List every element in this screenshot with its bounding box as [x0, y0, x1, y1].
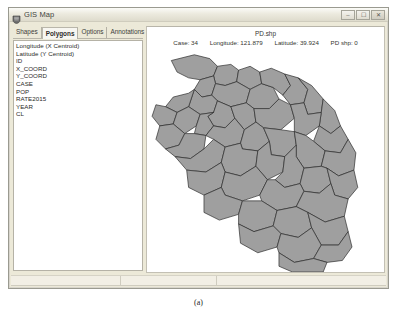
list-item[interactable]: Longitude (X Centroid) [16, 42, 140, 50]
list-item[interactable]: Y_COORD [16, 72, 140, 80]
map-view-panel[interactable]: PD.shp Case: 34 Longitude: 121.879 Latit… [146, 26, 385, 273]
figure-panel: GIS Map – ☐ ✕ Shapes Polygons O [0, 0, 397, 312]
window-controls: – ☐ ✕ [341, 10, 385, 20]
gis-app-icon [12, 10, 21, 19]
list-item[interactable]: RATE2015 [16, 95, 140, 103]
map-longitude-readout: Longitude: 121.879 [210, 39, 263, 46]
window-title: GIS Map [24, 10, 341, 19]
list-item[interactable]: YEAR [16, 103, 140, 111]
polygon-layer [152, 55, 358, 272]
map-case-readout: Case: 34 [173, 39, 198, 46]
tab-options[interactable]: Options [78, 27, 107, 38]
figure-caption: (a) [0, 298, 397, 308]
list-item[interactable]: ID [16, 57, 140, 65]
map-layer-title: PD.shp [147, 29, 384, 38]
status-bar [11, 275, 386, 286]
close-icon: ✕ [376, 12, 381, 18]
list-item[interactable]: X_COORD [16, 65, 140, 73]
status-cell-2 [121, 276, 217, 286]
status-cell-3 [217, 276, 386, 286]
minimize-icon: – [346, 12, 349, 18]
tab-polygons[interactable]: Polygons [42, 27, 79, 39]
map-status-line: Case: 34 Longitude: 121.879 Latitude: 39… [147, 38, 384, 47]
tab-shapes[interactable]: Shapes [13, 27, 42, 38]
maximize-icon: ☐ [361, 12, 366, 18]
minimize-button[interactable]: – [341, 10, 355, 20]
list-item[interactable]: POP [16, 88, 140, 96]
close-button[interactable]: ✕ [371, 10, 385, 20]
list-item[interactable]: CASE [16, 80, 140, 88]
tab-annotations[interactable]: Annotations [107, 27, 148, 38]
left-panel: Shapes Polygons Options Annotations Long… [9, 23, 145, 275]
polygon-map-svg [147, 49, 384, 272]
list-item[interactable]: Latitude (Y Centroid) [16, 50, 140, 58]
title-bar[interactable]: GIS Map – ☐ ✕ [9, 8, 388, 22]
status-cell-1 [11, 276, 121, 286]
tab-strip: Shapes Polygons Options Annotations [13, 26, 143, 39]
map-layer-readout: PD shp: 0 [331, 39, 358, 46]
map-latitude-readout: Latitude: 39.924 [274, 39, 318, 46]
list-item[interactable]: CL [16, 110, 140, 118]
map-polygon [171, 55, 217, 80]
gis-map-window: GIS Map – ☐ ✕ Shapes Polygons O [8, 7, 389, 289]
map-canvas[interactable] [147, 49, 384, 272]
field-list[interactable]: Longitude (X Centroid) Latitude (Y Centr… [13, 40, 143, 271]
maximize-button[interactable]: ☐ [356, 10, 370, 20]
client-area: Shapes Polygons Options Annotations Long… [9, 23, 388, 275]
